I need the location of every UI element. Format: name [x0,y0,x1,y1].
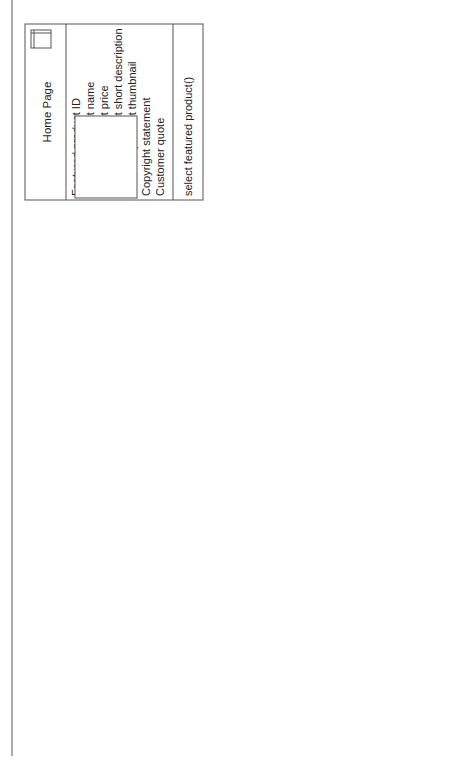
home-page-operation: select featured product() [182,77,194,196]
catalog-box [75,116,137,198]
catalog-class[interactable] [75,116,137,198]
home-page-title: Home Page [41,82,53,143]
class-window-icon [31,30,51,48]
home-page-attr: Customer quote [154,118,166,196]
diagram-canvas: Home Page Featured product ID Featured p… [0,0,473,776]
home-page-attr: Copyright statement [140,98,152,196]
